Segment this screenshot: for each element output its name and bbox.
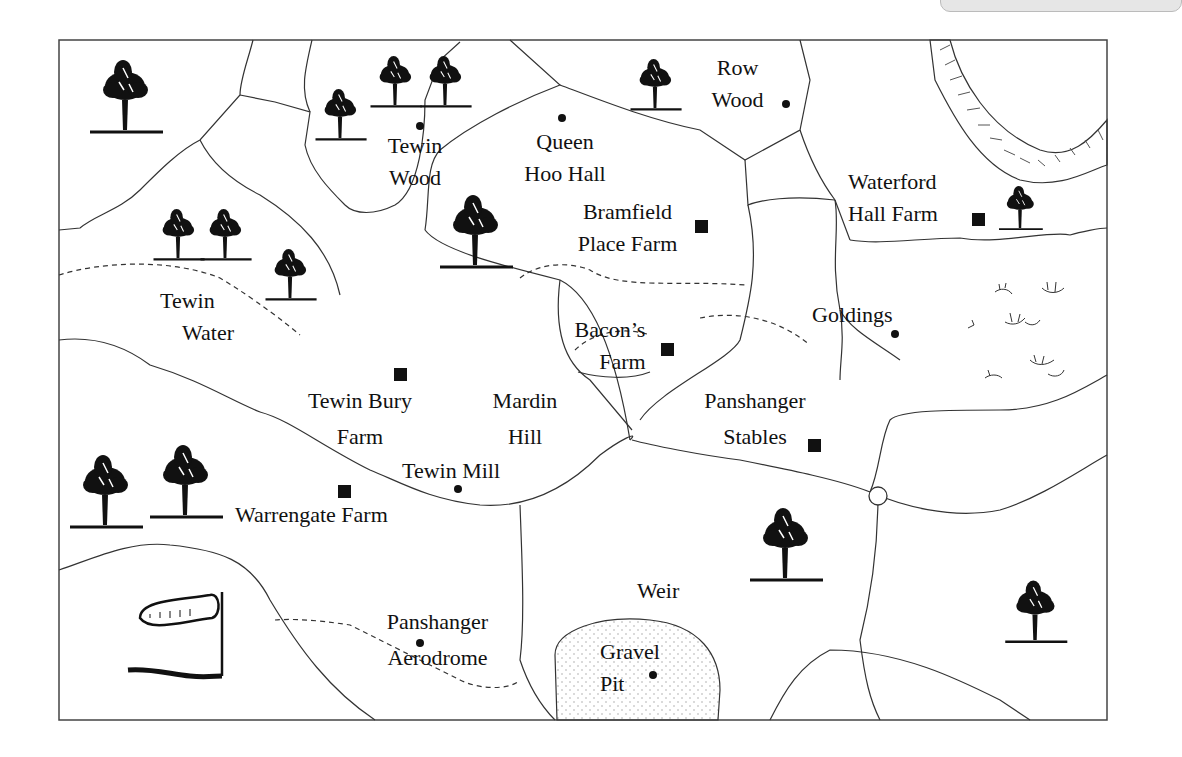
tree-icon [631, 59, 682, 109]
tree-icon [90, 60, 163, 132]
place-dot-queen-hoo-hall [558, 114, 566, 122]
farm-square-warrengate-farm [338, 485, 351, 498]
label-warrengate-farm: Warrengate Farm [235, 499, 388, 531]
label-tewin-mill: Tewin Mill [402, 455, 500, 487]
label-bramfield-place-farm: BramfieldPlace Farm [560, 196, 695, 260]
tree-icon [421, 56, 472, 106]
label-gravel-pit: GravelPit [600, 636, 660, 700]
label-tewin-water: TewinWater [160, 285, 234, 349]
place-dot-row-wood [782, 100, 790, 108]
tree-icon [154, 209, 205, 259]
label-panshanger-stables: PanshangerStables [680, 385, 830, 453]
label-tewin-bury-farm: Tewin BuryFarm [290, 385, 430, 453]
tree-icon [70, 455, 143, 527]
label-row-wood: RowWood [695, 52, 780, 116]
place-dot-tewin-wood [416, 122, 424, 130]
tree-icon [266, 249, 317, 299]
label-weir: Weir [637, 575, 679, 607]
windsock-icon [128, 592, 222, 677]
label-queen-hoo-hall: QueenHoo Hall [500, 126, 630, 190]
tree-icon [1005, 581, 1067, 642]
river-hatching [940, 45, 1103, 166]
tree-icon [316, 89, 367, 139]
marsh-icons [968, 282, 1064, 378]
label-waterford-hall-farm: WaterfordHall Farm [848, 166, 938, 230]
tree-icon [750, 508, 823, 580]
place-dot-goldings [891, 330, 899, 338]
tree-icon [440, 195, 513, 267]
farm-square-tewin-bury-farm [394, 368, 407, 381]
farm-square-bacons-farm [661, 343, 674, 356]
river-bank-hatched [930, 40, 1107, 183]
label-mardin-hill: MardinHill [470, 385, 580, 453]
label-goldings: Goldings [812, 299, 893, 331]
tree-icon [150, 445, 223, 517]
tree-icon [201, 209, 252, 259]
label-panshanger-aerodrome: PanshangerAerodrome [355, 606, 520, 674]
tree-icon [371, 56, 422, 106]
tree-icon [999, 186, 1043, 229]
label-tewin-wood: TewinWood [370, 130, 460, 194]
farm-square-waterford-hall-farm [972, 213, 985, 226]
label-bacons-farm: Bacon’sFarm [560, 314, 660, 378]
farm-square-bramfield-place-farm [695, 220, 708, 233]
roundabout-circle [869, 487, 887, 505]
